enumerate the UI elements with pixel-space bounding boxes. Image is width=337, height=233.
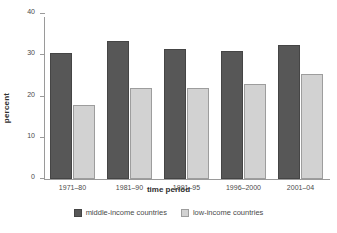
bar-group — [50, 14, 95, 179]
bar-middle-income — [278, 45, 300, 179]
bar-chart: percent 010203040 1971–801981–901991–951… — [0, 0, 337, 233]
legend-label: low-income countries — [193, 208, 263, 217]
dark-swatch-icon — [74, 209, 82, 217]
y-axis-tick-label: 20 — [27, 91, 35, 98]
bar-middle-income — [50, 53, 72, 179]
y-axis-tick-label: 40 — [27, 8, 35, 15]
bar-group — [164, 14, 209, 179]
bar-group — [107, 14, 152, 179]
chart-legend: middle-income countrieslow-income countr… — [0, 208, 337, 217]
y-axis-tick-label: 30 — [27, 49, 35, 56]
x-axis-label: time period — [0, 185, 337, 194]
bar-middle-income — [164, 49, 186, 179]
bar-group — [221, 14, 266, 179]
y-axis-label: percent — [2, 78, 11, 138]
bar-low-income — [130, 88, 152, 179]
light-swatch-icon — [181, 209, 189, 217]
bar-series-container — [45, 14, 330, 180]
bar-middle-income — [221, 51, 243, 179]
legend-item[interactable]: low-income countries — [181, 208, 263, 217]
bar-low-income — [187, 88, 209, 179]
bar-group — [278, 14, 323, 179]
y-axis-tick-label: 10 — [27, 132, 35, 139]
plot-area: 010203040 1971–801981–901991–951996–2000… — [44, 14, 330, 180]
bar-low-income — [73, 105, 95, 179]
legend-label: middle-income countries — [86, 208, 167, 217]
bar-low-income — [244, 84, 266, 179]
bar-low-income — [301, 74, 323, 179]
y-axis-tick-label: 0 — [31, 173, 35, 180]
bar-middle-income — [107, 41, 129, 179]
legend-item[interactable]: middle-income countries — [74, 208, 167, 217]
